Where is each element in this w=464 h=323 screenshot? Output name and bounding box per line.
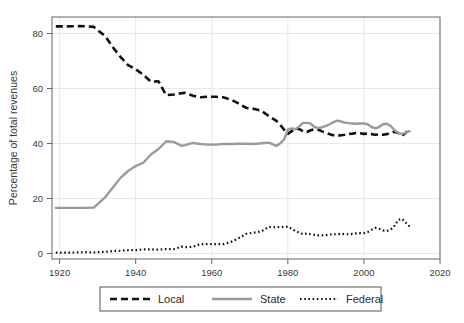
data-series-layer: [56, 26, 410, 253]
y-tick-label: 80: [32, 28, 43, 39]
x-tick-label: 1960: [201, 267, 222, 278]
y-tick-label: 40: [32, 138, 43, 149]
chart-figure: 020406080192019401960198020002020 Percen…: [0, 0, 464, 323]
x-tick-label: 2020: [429, 267, 450, 278]
legend-label-federal: Federal: [346, 293, 383, 305]
x-tick-label: 1940: [125, 267, 146, 278]
y-tick-label: 20: [32, 193, 43, 204]
series-line-federal: [56, 219, 410, 253]
series-line-local: [56, 26, 410, 136]
chart-canvas: 020406080192019401960198020002020 Percen…: [0, 0, 464, 323]
legend-label-state: State: [260, 293, 286, 305]
series-line-state: [56, 121, 410, 208]
x-tick-label: 1980: [277, 267, 298, 278]
chart-legend: Local State Federal: [100, 287, 383, 311]
y-tick-label: 60: [32, 83, 43, 94]
legend-label-local: Local: [158, 293, 184, 305]
plot-frame: [52, 17, 440, 259]
axis-ticks: [47, 34, 440, 265]
gridlines: [52, 17, 440, 259]
x-tick-label: 1920: [49, 267, 70, 278]
y-axis-title: Percentage of total revenues: [7, 71, 19, 205]
axis-tick-labels: 020406080192019401960198020002020: [32, 28, 450, 278]
x-tick-label: 2000: [353, 267, 374, 278]
y-tick-label: 0: [38, 248, 43, 259]
